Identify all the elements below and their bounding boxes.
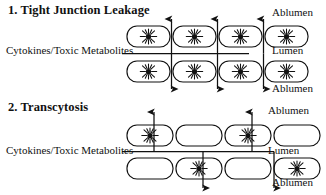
nucleus-icon <box>140 64 156 79</box>
nucleus-icon <box>142 128 158 143</box>
panel-1-lumen-label: Lumen <box>272 44 303 56</box>
nucleus-icon <box>191 161 207 176</box>
cell <box>127 158 173 179</box>
cell <box>274 125 320 146</box>
nucleus-icon <box>289 161 305 176</box>
panel-2-ablumen-top-label: Ablumen <box>268 104 309 116</box>
nucleus-icon <box>232 64 248 79</box>
cell <box>225 158 271 179</box>
panel-2-top-row <box>127 125 320 146</box>
panel-2-source-label: Cytokines/Toxic Metabolites <box>6 144 133 156</box>
nucleus-icon <box>140 29 156 44</box>
panel-1-source-label: Cytokines/Toxic Metabolites <box>6 44 133 56</box>
nucleus-icon <box>278 64 294 79</box>
diagram-canvas <box>0 0 326 195</box>
panel-2-ablumen-bottom-label: Ablumen <box>272 176 313 188</box>
nucleus-icon <box>186 29 202 44</box>
figure-root: 1. Tight Junction Leakage Cytokines/Toxi… <box>0 0 326 195</box>
cell <box>176 125 222 146</box>
panel-2-heading: 2. Transcytosis <box>8 100 88 115</box>
panel-1-ablumen-top-label: Ablumen <box>272 6 313 18</box>
nucleus-icon <box>232 29 248 44</box>
nucleus-icon <box>278 29 294 44</box>
panel-1-heading: 1. Tight Junction Leakage <box>8 3 150 18</box>
nucleus-icon <box>186 64 202 79</box>
nucleus-icon <box>240 128 256 143</box>
panel-2-lumen-label: Lumen <box>268 144 299 156</box>
panel-1-ablumen-bottom-label: Ablumen <box>272 82 313 94</box>
